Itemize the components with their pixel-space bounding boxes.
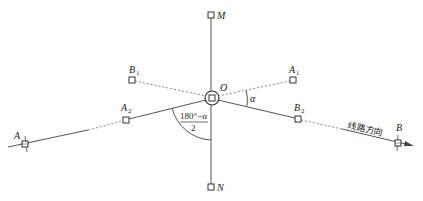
point-o-label: O — [220, 82, 227, 93]
line-a-a2-dashed — [88, 121, 123, 130]
point-n-marker — [208, 184, 214, 190]
arrow-head-icon — [404, 141, 414, 146]
line-o-b2 — [218, 100, 295, 118]
point-a2-label: A — [120, 102, 128, 113]
survey-angle-diagram: α 180°−α 2 M N O B 1 A 1 A 2 B 2 A B 线路方… — [0, 0, 423, 201]
point-n-label: N — [216, 182, 225, 193]
line-b2-b-dashed — [301, 120, 342, 129]
point-a-label: A — [13, 130, 21, 141]
point-a1-label: A — [288, 64, 296, 75]
point-b1-subscript: 1 — [136, 69, 140, 77]
angle-alpha-label: α — [250, 93, 256, 104]
point-b2-marker — [295, 116, 301, 122]
point-b2-label: B — [294, 102, 300, 113]
point-a2-marker — [123, 117, 129, 123]
point-m-label: M — [216, 10, 226, 21]
line-o-b1 — [135, 81, 206, 96]
point-b1-marker — [129, 77, 135, 83]
point-a2-subscript: 2 — [128, 107, 132, 115]
point-m-marker — [208, 12, 214, 18]
angle-alpha-arc — [246, 90, 247, 106]
point-a1-subscript: 1 — [296, 69, 300, 77]
point-a1-marker — [290, 77, 296, 83]
angle-denominator: 2 — [191, 123, 196, 133]
angle-numerator: 180°−α — [180, 111, 207, 121]
point-b1-label: B — [129, 64, 135, 75]
point-o-marker — [209, 95, 215, 101]
point-b2-subscript: 2 — [301, 107, 305, 115]
point-b-label: B — [396, 122, 402, 133]
route-direction-label: 线路方向 — [347, 119, 385, 138]
